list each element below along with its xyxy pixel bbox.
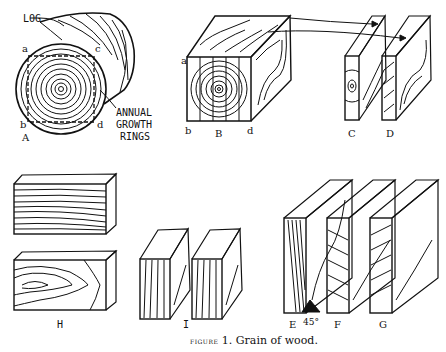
label-corner-b: b: [20, 120, 26, 130]
board-G: [370, 180, 438, 313]
label-45-degrees: 45°: [303, 318, 319, 327]
label-D: D: [386, 129, 394, 139]
blocks-I: [140, 229, 242, 319]
label-C: C: [348, 129, 356, 139]
block-H-bottom: [14, 251, 116, 310]
caption-text: Grain of wood.: [236, 334, 318, 347]
wood-grain-diagram: [0, 0, 446, 352]
label-corner-a: a: [22, 44, 28, 54]
caption-prefix: figure: [190, 336, 218, 346]
label-rings: RINGS: [120, 132, 150, 142]
block-H-top: [14, 174, 116, 234]
label-B-corner-d: d: [247, 126, 253, 136]
label-G: G: [379, 320, 387, 330]
board-F: [327, 180, 395, 313]
label-I: I: [183, 320, 189, 330]
label-corner-c: c: [95, 44, 101, 54]
label-log: LOG: [23, 14, 41, 24]
label-annual: ANNUAL: [116, 108, 152, 118]
label-E: E: [289, 320, 296, 330]
board-C: [345, 16, 386, 120]
label-growth: GROWTH: [116, 120, 152, 130]
board-E: [284, 180, 352, 313]
label-B-corner-b: b: [185, 126, 191, 136]
board-D: [382, 16, 431, 120]
caption-number: 1.: [222, 334, 233, 347]
label-B: B: [215, 129, 222, 139]
figure-caption: figure 1. Grain of wood.: [190, 334, 318, 347]
label-corner-d: d: [97, 120, 103, 130]
label-A: A: [22, 133, 29, 143]
label-H: H: [57, 320, 63, 330]
label-B-corner-a: a: [181, 56, 187, 66]
label-F: F: [334, 320, 341, 330]
